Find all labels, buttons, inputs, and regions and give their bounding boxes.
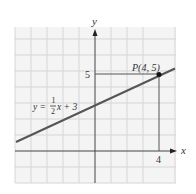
point-label: P(4, 5) — [131, 62, 160, 74]
equation-denominator: 2 — [51, 107, 55, 116]
y-tick-label: 5 — [85, 69, 90, 80]
equation-lhs: y = — [32, 102, 46, 112]
equation-rhs: x + 3 — [56, 102, 77, 112]
y-axis-label: y — [91, 15, 97, 27]
x-axis-label: x — [180, 144, 186, 156]
x-tick-label: 4 — [156, 154, 161, 165]
coordinate-plane: x y P(4, 5) 5 4 y = 1 2 x + 3 — [0, 0, 196, 194]
equation-numerator: 1 — [52, 96, 56, 105]
